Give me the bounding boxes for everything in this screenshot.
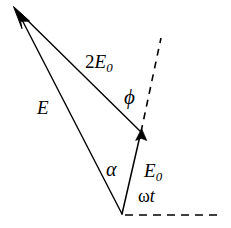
label-two-e0-coefficient: 2 xyxy=(85,51,95,72)
label-e0-subscript: 0 xyxy=(156,169,162,184)
phasor-diagram-figure: 2E0 E ϕ α E0 ωt xyxy=(0,0,231,228)
label-phi-symbol: ϕ xyxy=(124,85,135,109)
label-two-e0: 2E0 xyxy=(85,52,113,75)
label-e-resultant: E xyxy=(37,98,49,117)
phasor-diagram-canvas xyxy=(0,0,231,228)
label-e0: E0 xyxy=(144,161,162,184)
resultant-vector-arrowhead xyxy=(14,7,30,29)
label-t-symbol: t xyxy=(150,186,155,206)
e0-extension-dashed-line xyxy=(141,38,161,132)
e0-vector-arrowhead xyxy=(136,129,147,141)
label-omega-t: ωt xyxy=(138,187,155,205)
label-omega-symbol: ω xyxy=(138,186,150,206)
label-alpha-symbol: α xyxy=(106,158,117,180)
label-phi: ϕ xyxy=(124,87,135,108)
label-e0-symbol: E xyxy=(144,160,156,181)
e-resultant-vector-line xyxy=(19,14,122,214)
label-alpha: α xyxy=(106,159,117,179)
label-two-e0-symbol: E xyxy=(95,51,107,72)
label-e-resultant-symbol: E xyxy=(37,97,49,118)
label-two-e0-subscript: 0 xyxy=(106,60,112,75)
